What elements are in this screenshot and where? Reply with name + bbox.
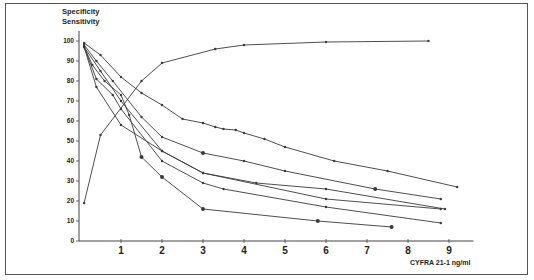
data-point-marker bbox=[161, 104, 163, 106]
data-point-marker bbox=[201, 207, 205, 211]
data-point-marker bbox=[325, 41, 327, 43]
series-line-5 bbox=[84, 47, 441, 209]
data-point-marker bbox=[316, 219, 320, 223]
data-point-marker bbox=[161, 62, 163, 64]
data-point-marker bbox=[456, 186, 458, 188]
data-point-marker bbox=[103, 80, 105, 82]
data-point-marker bbox=[222, 188, 224, 190]
data-point-marker bbox=[202, 122, 204, 124]
data-point-marker bbox=[95, 86, 97, 88]
series-line-6 bbox=[84, 47, 392, 227]
data-point-marker bbox=[243, 44, 245, 46]
data-point-marker bbox=[120, 76, 122, 78]
data-point-marker bbox=[161, 160, 163, 162]
data-point-marker bbox=[120, 94, 122, 96]
data-point-marker bbox=[263, 138, 265, 140]
data-point-marker bbox=[99, 70, 101, 72]
data-point-marker bbox=[120, 108, 122, 110]
data-point-marker bbox=[83, 202, 85, 204]
data-point-marker bbox=[161, 150, 163, 152]
data-point-marker bbox=[243, 160, 245, 162]
data-point-marker bbox=[373, 187, 377, 191]
data-point-marker bbox=[386, 170, 388, 172]
series-line-2 bbox=[84, 45, 441, 199]
data-point-marker bbox=[95, 78, 97, 80]
data-point-marker bbox=[325, 188, 327, 190]
series-line-3 bbox=[84, 47, 445, 209]
data-point-marker bbox=[440, 208, 442, 210]
data-point-marker bbox=[140, 80, 142, 82]
data-point-marker bbox=[160, 175, 164, 179]
data-point-marker bbox=[91, 64, 93, 66]
line-chart-plot bbox=[0, 0, 534, 280]
data-point-marker bbox=[202, 182, 204, 184]
data-point-marker bbox=[140, 92, 142, 94]
data-point-marker bbox=[444, 208, 446, 210]
data-point-marker bbox=[284, 170, 286, 172]
data-point-marker bbox=[112, 94, 114, 96]
data-point-marker bbox=[222, 128, 224, 130]
data-point-marker bbox=[99, 54, 101, 56]
data-point-marker bbox=[427, 40, 429, 42]
data-point-marker bbox=[140, 116, 142, 118]
data-point-marker bbox=[120, 100, 122, 102]
data-point-marker bbox=[202, 172, 204, 174]
data-point-marker bbox=[112, 80, 114, 82]
data-point-marker bbox=[214, 48, 216, 50]
series-line-0 bbox=[84, 41, 428, 203]
data-point-marker bbox=[214, 126, 216, 128]
data-point-marker bbox=[390, 225, 394, 229]
data-point-marker bbox=[243, 132, 245, 134]
data-point-marker bbox=[325, 198, 327, 200]
data-point-marker bbox=[284, 146, 286, 148]
data-point-marker bbox=[120, 124, 122, 126]
data-point-marker bbox=[95, 60, 97, 62]
data-point-marker bbox=[325, 206, 327, 208]
data-point-marker bbox=[333, 160, 335, 162]
data-point-marker bbox=[83, 46, 85, 48]
data-point-marker bbox=[440, 222, 442, 224]
data-point-marker bbox=[201, 151, 205, 155]
data-point-marker bbox=[161, 136, 163, 138]
data-point-marker bbox=[140, 155, 144, 159]
data-point-marker bbox=[99, 134, 101, 136]
data-point-marker bbox=[128, 114, 130, 116]
data-point-marker bbox=[235, 129, 237, 131]
data-point-marker bbox=[440, 198, 442, 200]
data-point-marker bbox=[181, 118, 183, 120]
